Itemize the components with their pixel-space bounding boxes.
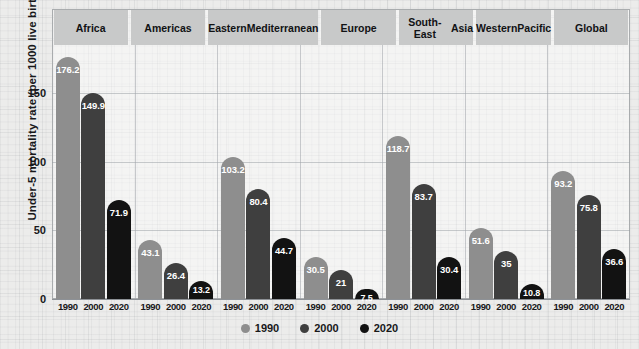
region-header-line: Europe [341, 22, 377, 34]
bar-group-south-east-asia: 118.783.730.4 [382, 45, 465, 299]
x-tick-label-2000: 2000 [329, 301, 353, 312]
x-tick-label-1990: 1990 [386, 301, 410, 312]
region-header-global: Global [554, 10, 628, 45]
x-tick-label-2000: 2000 [164, 301, 188, 312]
region-header-line: Pacific [517, 22, 551, 34]
bars-container: 30.5217.5 [300, 45, 383, 299]
legend-label: 2020 [374, 322, 398, 334]
x-tick-label-2020: 2020 [602, 301, 626, 312]
bar-value-label: 36.6 [605, 256, 623, 267]
bar-value-label: 149.9 [82, 100, 105, 111]
x-tick-label-2000: 2000 [412, 301, 436, 312]
bar-group-africa: 176.2149.971.9 [52, 45, 135, 299]
region-header-line: Africa [76, 22, 106, 34]
bars-container: 93.275.836.6 [547, 45, 630, 299]
region-header-line: Global [575, 22, 608, 34]
bar-value-label: 93.2 [554, 178, 572, 189]
x-tick-group: 199020002020 [465, 301, 548, 312]
bar-value-label: 26.4 [167, 270, 185, 281]
x-tick-label-1990: 1990 [221, 301, 245, 312]
bar-value-label: 83.7 [415, 191, 433, 202]
bar-americas-2000[interactable]: 26.4 [164, 263, 188, 299]
region-header-line: Asia [451, 22, 473, 34]
bar-value-label: 71.9 [110, 207, 128, 218]
bar-groups: 176.2149.971.943.126.413.2103.280.444.73… [52, 45, 630, 299]
x-tick-label-2020: 2020 [437, 301, 461, 312]
bar-value-label: 43.1 [141, 247, 159, 258]
region-header-line: Western [476, 22, 517, 34]
legend-swatch-icon [300, 324, 309, 333]
bar-group-eastern-mediterranean: 103.280.444.7 [217, 45, 300, 299]
bar-value-label: 75.8 [580, 202, 598, 213]
bar-global-1990[interactable]: 93.2 [551, 171, 575, 299]
y-axis-title: Under-5 mortality rate (per 1000 live bi… [26, 0, 38, 231]
bar-africa-2020[interactable]: 71.9 [107, 200, 131, 299]
x-tick-label-2000: 2000 [494, 301, 518, 312]
x-tick-label-2000: 2000 [246, 301, 270, 312]
x-tick-group: 199020002020 [300, 301, 383, 312]
legend-label: 2000 [314, 322, 338, 334]
bar-americas-1990[interactable]: 43.1 [138, 240, 162, 299]
bar-value-label: 51.6 [472, 235, 490, 246]
bars-container: 176.2149.971.9 [52, 45, 135, 299]
bar-americas-2020[interactable]: 13.2 [189, 281, 213, 299]
bar-value-label: 103.2 [221, 164, 244, 175]
x-tick-group: 199020002020 [52, 301, 135, 312]
region-header-row: AfricaAmericasEasternMediterraneanEurope… [52, 9, 630, 45]
x-tick-label-2020: 2020 [272, 301, 296, 312]
bar-south-east-asia-2020[interactable]: 30.4 [437, 257, 461, 299]
bar-eastern-mediterranean-1990[interactable]: 103.2 [221, 157, 245, 299]
bar-africa-1990[interactable]: 176.2 [56, 57, 80, 299]
bar-south-east-asia-2000[interactable]: 83.7 [412, 184, 436, 299]
region-header-line: Eastern [208, 22, 247, 34]
x-axis-tick-labels: 1990200020201990200020201990200020201990… [52, 301, 630, 312]
bar-western-pacific-2000[interactable]: 35 [494, 251, 518, 299]
legend-item-1990[interactable]: 1990 [241, 322, 279, 334]
region-header-line: Mediterranean [247, 22, 319, 34]
chart-legend: 199020002020 [0, 322, 639, 334]
x-tick-label-2020: 2020 [107, 301, 131, 312]
bar-eastern-mediterranean-2020[interactable]: 44.7 [272, 238, 296, 299]
bar-value-label: 44.7 [275, 245, 293, 256]
bar-value-label: 80.4 [249, 196, 267, 207]
x-tick-label-1990: 1990 [56, 301, 80, 312]
bar-global-2020[interactable]: 36.6 [602, 249, 626, 299]
bars-container: 43.126.413.2 [135, 45, 218, 299]
plot-area: AfricaAmericasEasternMediterraneanEurope… [52, 9, 630, 299]
bar-africa-2000[interactable]: 149.9 [81, 93, 105, 299]
legend-item-2020[interactable]: 2020 [360, 322, 398, 334]
x-tick-group: 199020002020 [547, 301, 630, 312]
bar-eastern-mediterranean-2000[interactable]: 80.4 [246, 189, 270, 299]
x-tick-label-1990: 1990 [551, 301, 575, 312]
region-header-americas: Americas [131, 10, 205, 45]
bar-group-global: 93.275.836.6 [547, 45, 630, 299]
region-header-western-pacific: WesternPacific [476, 10, 551, 45]
region-header-eastern-mediterranean: EasternMediterranean [208, 10, 318, 45]
bar-value-label: 10.8 [523, 288, 540, 298]
bar-value-label: 21 [336, 277, 346, 288]
bar-value-label: 13.2 [193, 285, 210, 295]
y-tick-label-0: 0 [40, 293, 46, 305]
x-tick-label-2000: 2000 [577, 301, 601, 312]
bar-europe-1990[interactable]: 30.5 [304, 257, 328, 299]
region-header-south-east-asia: South-EastAsia [399, 10, 473, 45]
bar-western-pacific-2020[interactable]: 10.8 [520, 284, 544, 299]
region-header-africa: Africa [54, 10, 128, 45]
x-tick-label-2020: 2020 [189, 301, 213, 312]
bars-container: 103.280.444.7 [217, 45, 300, 299]
bar-south-east-asia-1990[interactable]: 118.7 [386, 136, 410, 299]
bar-group-western-pacific: 51.63510.8 [465, 45, 548, 299]
x-tick-label-2020: 2020 [520, 301, 544, 312]
bar-group-europe: 30.5217.5 [300, 45, 383, 299]
bar-value-label: 35 [501, 258, 511, 269]
legend-item-2000[interactable]: 2000 [300, 322, 338, 334]
x-tick-label-1990: 1990 [304, 301, 328, 312]
bar-value-label: 30.4 [440, 264, 458, 275]
bar-group-americas: 43.126.413.2 [135, 45, 218, 299]
x-tick-label-2000: 2000 [81, 301, 105, 312]
x-tick-label-1990: 1990 [138, 301, 162, 312]
bar-europe-2000[interactable]: 21 [329, 270, 353, 299]
bar-western-pacific-1990[interactable]: 51.6 [469, 228, 493, 299]
bar-europe-2020[interactable]: 7.5 [355, 289, 379, 299]
bar-global-2000[interactable]: 75.8 [577, 195, 601, 299]
